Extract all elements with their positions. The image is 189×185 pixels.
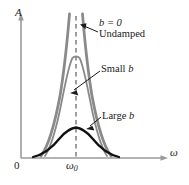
plot-canvas: [0, 0, 189, 185]
omega0-tick-symbol: ω: [66, 159, 74, 171]
annotation-small-b-text: Small: [101, 63, 128, 74]
x-axis-label: ω: [170, 147, 178, 159]
x-axis-arrowhead: [161, 155, 169, 161]
annotation-undamped: b = 0Undamped: [99, 17, 145, 40]
annotation-small-b-symbol: b: [128, 63, 133, 74]
omega0-tick-label: ω0: [66, 160, 78, 173]
annotation-undamped-line1: b = 0: [99, 17, 145, 28]
y-axis-label: A: [15, 7, 22, 19]
annotation-large-b-text: Large: [102, 110, 129, 121]
annotation-small-b: Small b: [101, 63, 133, 74]
omega0-tick-subscript: 0: [74, 164, 78, 173]
annotation-large-b: Large b: [102, 110, 134, 121]
arrow-small-b-head: [70, 91, 78, 96]
arrow-undamped-line: [84, 26, 98, 32]
resonance-curve-figure: A ω 0 ω0 b = 0Undamped Small b Large b: [0, 0, 189, 185]
annotation-large-b-symbol: b: [129, 110, 134, 121]
arrow-large-b-head: [86, 126, 94, 131]
annotation-undamped-line2: Undamped: [99, 28, 145, 39]
origin-tick-label: 0: [14, 160, 20, 172]
